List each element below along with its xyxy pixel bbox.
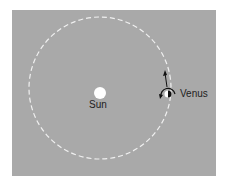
orbit-direction-arrow-icon xyxy=(163,70,167,87)
sun xyxy=(94,87,106,99)
sun-label: Sun xyxy=(89,100,107,110)
venus-label: Venus xyxy=(180,89,208,99)
venus xyxy=(165,91,172,98)
